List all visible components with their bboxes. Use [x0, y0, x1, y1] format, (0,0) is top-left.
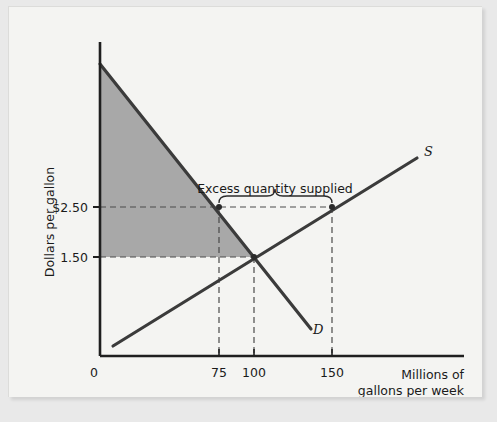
point-qd-75 [216, 204, 222, 210]
x-tick-label-75: 75 [211, 365, 227, 380]
y-tick-label-1-50: 1.50 [60, 250, 88, 265]
point-equilibrium [251, 254, 257, 260]
point-qs-150 [329, 204, 335, 210]
figure-page: $2.50 1.50 0 75 100 150 Dollars per gall… [0, 0, 497, 422]
figure-card: $2.50 1.50 0 75 100 150 Dollars per gall… [8, 6, 482, 397]
y-tick-label-2-50: $2.50 [52, 200, 88, 215]
y-axis-title: Dollars per gallon [42, 167, 57, 277]
x-axis-title-line2: gallons per week [358, 383, 465, 397]
demand-curve-label: D [312, 322, 324, 337]
x-tick-label-100: 100 [242, 365, 266, 380]
x-origin-label: 0 [90, 365, 98, 380]
supply-demand-chart: $2.50 1.50 0 75 100 150 Dollars per gall… [9, 7, 482, 397]
x-tick-label-150: 150 [320, 365, 344, 380]
excess-quantity-supplied-label: Excess quantity supplied [197, 181, 353, 196]
x-axis-title-line1: Millions of [401, 367, 464, 382]
supply-curve-label: S [424, 144, 433, 159]
